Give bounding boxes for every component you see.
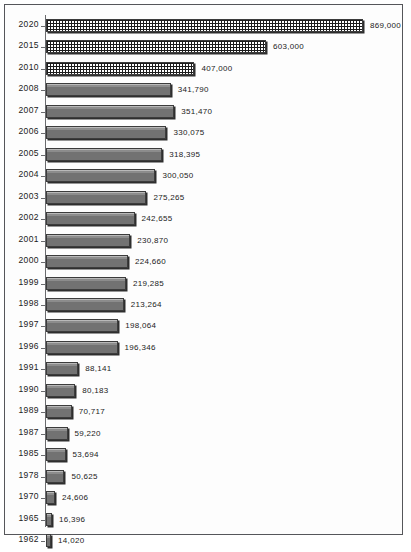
axis-tick <box>41 47 45 48</box>
axis-tick <box>41 69 45 70</box>
bar <box>46 405 72 418</box>
axis-tick <box>41 498 45 499</box>
bar <box>46 234 130 247</box>
bar-value-label: 407,000 <box>201 64 232 73</box>
bar <box>46 105 174 118</box>
bar <box>46 83 171 96</box>
category-label: 1997 <box>5 319 39 329</box>
bar-value-label: 300,050 <box>162 171 193 180</box>
bar <box>46 341 118 354</box>
category-label: 2020 <box>5 19 39 29</box>
bar <box>46 448 66 461</box>
bar <box>46 255 128 268</box>
category-label: 1985 <box>5 448 39 458</box>
bar-value-label: 351,470 <box>181 107 212 116</box>
axis-tick <box>41 455 45 456</box>
bar-value-label: 224,660 <box>135 257 166 266</box>
bar-value-label: 230,870 <box>137 236 168 245</box>
axis-tick <box>41 26 45 27</box>
axis-tick <box>41 477 45 478</box>
bar-value-label: 219,285 <box>133 279 164 288</box>
bar-value-label: 330,075 <box>173 128 204 137</box>
category-label: 1965 <box>5 513 39 523</box>
bar-value-label: 70,717 <box>79 407 105 416</box>
axis-tick <box>41 305 45 306</box>
bar-value-label: 53,694 <box>73 450 99 459</box>
bar <box>46 470 64 483</box>
category-label: 1991 <box>5 362 39 372</box>
axis-tick <box>41 262 45 263</box>
chart-frame: 2020869,0002015603,0002010407,0002008341… <box>4 4 403 535</box>
bar <box>46 513 52 526</box>
category-label: 2003 <box>5 191 39 201</box>
category-label: 1987 <box>5 427 39 437</box>
axis-tick <box>41 112 45 113</box>
axis-tick <box>41 541 45 542</box>
axis-tick <box>41 219 45 220</box>
axis-tick <box>41 412 45 413</box>
bar-value-label: 196,346 <box>125 343 156 352</box>
bar-value-label: 242,655 <box>142 214 173 223</box>
bar-value-label: 24,606 <box>62 493 88 502</box>
category-label: 2001 <box>5 234 39 244</box>
bar-chart-plot-area: 2020869,0002015603,0002010407,0002008341… <box>5 5 402 534</box>
axis-tick <box>41 348 45 349</box>
category-label: 2002 <box>5 212 39 222</box>
bar <box>46 534 51 547</box>
axis-tick <box>41 155 45 156</box>
axis-tick <box>41 326 45 327</box>
bar <box>46 191 146 204</box>
category-label: 1962 <box>5 534 39 544</box>
category-label: 1989 <box>5 405 39 415</box>
bar-value-label: 341,790 <box>178 85 209 94</box>
bar-value-label: 213,264 <box>131 300 162 309</box>
bar <box>46 169 155 182</box>
axis-tick <box>41 241 45 242</box>
bar <box>46 148 162 161</box>
bar <box>46 298 124 311</box>
bar <box>46 491 55 504</box>
category-label: 1978 <box>5 470 39 480</box>
bar-value-label: 275,265 <box>153 193 184 202</box>
bar-value-label: 88,141 <box>85 364 111 373</box>
bar <box>46 319 118 332</box>
category-label: 2006 <box>5 126 39 136</box>
bar-value-label: 869,000 <box>370 21 401 30</box>
category-label: 2004 <box>5 169 39 179</box>
bar <box>46 126 166 139</box>
bar <box>46 40 266 53</box>
category-label: 1996 <box>5 341 39 351</box>
bar-value-label: 603,000 <box>273 42 304 51</box>
axis-tick <box>41 520 45 521</box>
bar <box>46 277 126 290</box>
category-label: 2000 <box>5 255 39 265</box>
bar <box>46 19 363 32</box>
axis-tick <box>41 369 45 370</box>
axis-tick <box>41 198 45 199</box>
bar-value-label: 318,395 <box>169 150 200 159</box>
bar <box>46 362 78 375</box>
bar-value-label: 198,064 <box>125 321 156 330</box>
axis-tick <box>41 284 45 285</box>
bar-value-label: 16,396 <box>59 515 85 524</box>
bar <box>46 212 135 225</box>
bar-value-label: 50,625 <box>71 472 97 481</box>
category-label: 1990 <box>5 384 39 394</box>
axis-tick <box>41 434 45 435</box>
bar <box>46 62 194 75</box>
category-label: 2005 <box>5 148 39 158</box>
axis-tick <box>41 176 45 177</box>
axis-tick <box>41 90 45 91</box>
bar <box>46 384 75 397</box>
axis-tick <box>41 133 45 134</box>
category-label: 1998 <box>5 298 39 308</box>
category-label: 2015 <box>5 40 39 50</box>
category-label: 1999 <box>5 277 39 287</box>
category-label: 1970 <box>5 491 39 501</box>
bar-value-label: 59,220 <box>75 429 101 438</box>
category-label: 2008 <box>5 83 39 93</box>
category-label: 2010 <box>5 62 39 72</box>
bar-value-label: 14,020 <box>58 536 84 545</box>
category-label: 2007 <box>5 105 39 115</box>
bar <box>46 427 68 440</box>
